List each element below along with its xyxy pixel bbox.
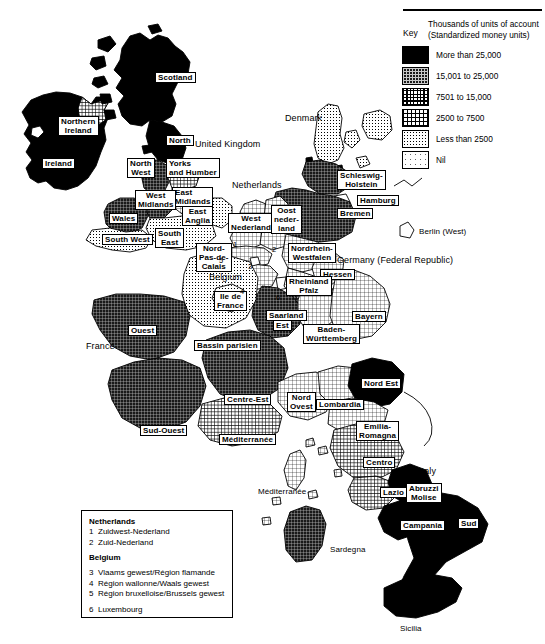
island-small-a bbox=[306, 438, 315, 447]
notes-item-3-num: 3 bbox=[89, 568, 98, 579]
key-title: Thousands of units of account (Standardi… bbox=[428, 19, 544, 41]
label-south-east: South East bbox=[155, 228, 184, 248]
marker-6: 6 bbox=[276, 293, 280, 302]
key-row-0: More than 25,000 bbox=[400, 46, 545, 66]
key-title-line-1: Thousands of units of account bbox=[428, 19, 544, 30]
label-emilia-romagna: Emilia- Romagna bbox=[356, 421, 399, 441]
marker-1: 1 bbox=[233, 240, 237, 249]
notes-item-1: 1Zuidwest-Nederland bbox=[89, 527, 225, 538]
coast-squiggle bbox=[394, 178, 422, 186]
label-bremen: Bremen bbox=[337, 208, 373, 219]
label-bassin-parisien: Bassin parisien bbox=[194, 340, 261, 351]
label-campania: Campania bbox=[400, 520, 445, 531]
label-north: North bbox=[166, 135, 194, 146]
key-top-rule bbox=[403, 9, 542, 11]
notes-item-4-num: 4 bbox=[89, 579, 98, 590]
swatch-7501-to-15000 bbox=[402, 88, 429, 106]
label-oost-nederland: Oost neder- land bbox=[271, 205, 302, 234]
label-west-nederland: West Nederland bbox=[228, 213, 274, 233]
label-baden-wurttemberg: Baden- Württemberg bbox=[303, 324, 360, 344]
label-east-anglia: East Anglia bbox=[182, 206, 213, 226]
label-denmark: Denmark bbox=[285, 113, 322, 123]
label-south-west: South West bbox=[102, 234, 153, 245]
swatch-2500-to-7500 bbox=[402, 109, 429, 127]
label-mediterranee: Méditerranée bbox=[219, 434, 276, 445]
region-denmark-funen bbox=[344, 130, 360, 148]
notes-item-6-text: Luxembourg bbox=[98, 605, 142, 614]
label-united-kingdom: United Kingdom bbox=[195, 139, 260, 149]
notes-item-3-text: Vlaams gewest/Région flamande bbox=[98, 568, 215, 577]
label-scotland: Scotland bbox=[155, 72, 196, 83]
label-lazio: Lazio bbox=[380, 487, 407, 498]
label-nord-est: Nord Est bbox=[361, 378, 401, 389]
notes-item-6: 6Luxembourg bbox=[89, 605, 225, 616]
key-label-5: Nil bbox=[436, 155, 446, 165]
region-denmark-bornholm bbox=[356, 156, 370, 168]
label-germany: Germany (Federal Republic) bbox=[337, 255, 453, 265]
key-row-2: 7501 to 15,000 bbox=[400, 88, 545, 108]
key-row-4: Less than 2500 bbox=[400, 130, 545, 150]
notes-item-1-num: 1 bbox=[89, 527, 98, 538]
label-france: France bbox=[86, 341, 115, 351]
scotland-outer-isles-4 bbox=[100, 94, 112, 104]
key-label-4: Less than 2500 bbox=[436, 134, 493, 144]
scotland-outer-isles-2 bbox=[90, 56, 106, 70]
swatch-less-than-2500 bbox=[402, 130, 429, 148]
island-elba bbox=[318, 446, 328, 455]
island-small-d bbox=[262, 517, 271, 525]
label-east-midlands: East Midlands bbox=[172, 187, 213, 207]
swatch-nil bbox=[402, 151, 429, 169]
marker-3: 3 bbox=[248, 262, 252, 271]
key-word-label: Key bbox=[403, 28, 418, 38]
scotland-outer-isles-3 bbox=[92, 76, 108, 88]
label-rheinland-pfalz: Rheinland Pfalz bbox=[286, 276, 332, 296]
label-schleswig-holstein: Schleswig- Holstein bbox=[337, 170, 386, 190]
label-west-midlands: West Midlands bbox=[135, 190, 176, 210]
label-netherlands: Netherlands bbox=[232, 180, 282, 190]
label-lombardia: Lombardia bbox=[316, 399, 364, 410]
label-belgium: Belgium bbox=[209, 272, 242, 282]
key-title-line-2: (Standardized money units) bbox=[428, 30, 544, 41]
region-berlin-west bbox=[400, 222, 414, 238]
notes-item-3: 3Vlaams gewest/Région flamande bbox=[89, 568, 225, 579]
notes-item-5-text: Région bruxelloise/Brussels gewest bbox=[98, 589, 224, 598]
region-sud-ouest bbox=[108, 358, 206, 430]
island-small-e bbox=[334, 469, 342, 477]
marker-5: 5 bbox=[219, 256, 223, 265]
map-key-panel: Key Thousands of units of account (Stand… bbox=[400, 0, 545, 171]
label-berlin-west: Berlin (West) bbox=[419, 227, 466, 236]
key-header: Key Thousands of units of account (Stand… bbox=[400, 19, 545, 45]
notes-item-6-num: 6 bbox=[89, 605, 98, 616]
label-northern-ireland: Northern Ireland bbox=[58, 116, 99, 136]
notes-item-1-text: Zuidwest-Nederland bbox=[98, 527, 170, 536]
notes-belgium-heading: Belgium bbox=[89, 553, 225, 562]
key-row-1: 15,001 to 25,000 bbox=[400, 67, 545, 87]
scotland-outer-isles-1 bbox=[98, 36, 116, 52]
label-mediterranee-corse: Méditerranée bbox=[258, 487, 306, 496]
label-north-west: North West bbox=[127, 158, 155, 178]
island-small-b bbox=[308, 490, 318, 499]
label-abruzzi-molise: Abruzzi Molise bbox=[406, 483, 442, 503]
region-sicilia bbox=[384, 574, 462, 618]
label-centro: Centro bbox=[363, 457, 395, 468]
label-nord-pas-de-calais: Nord- Pas-de- Calais bbox=[196, 243, 232, 272]
swatch-more-than-25000 bbox=[402, 46, 429, 64]
notes-netherlands-heading: Netherlands bbox=[89, 517, 225, 526]
notes-item-2-num: 2 bbox=[89, 538, 98, 549]
notes-item-2: 2Zuid-Nederland bbox=[89, 538, 225, 549]
region-corse bbox=[284, 450, 306, 490]
label-sardegna: Sardegna bbox=[330, 545, 366, 554]
island-small-c bbox=[272, 497, 281, 505]
label-centre-est: Centre-Est bbox=[224, 394, 271, 405]
label-sud-ouest: Sud-Ouest bbox=[140, 425, 187, 436]
scotland-outer-isles-5 bbox=[104, 110, 116, 120]
marker-2: 2 bbox=[272, 245, 276, 254]
notes-item-5-num: 5 bbox=[89, 589, 98, 600]
notes-item-5: 5Région bruxelloise/Brussels gewest bbox=[89, 589, 225, 600]
marker-4: 4 bbox=[240, 287, 244, 296]
label-bayern: Bayern bbox=[352, 311, 386, 322]
label-est: Est bbox=[273, 320, 292, 331]
key-row-5: Nil bbox=[400, 151, 545, 171]
label-ireland: Ireland bbox=[42, 158, 75, 169]
label-italy: Italy bbox=[419, 466, 436, 476]
